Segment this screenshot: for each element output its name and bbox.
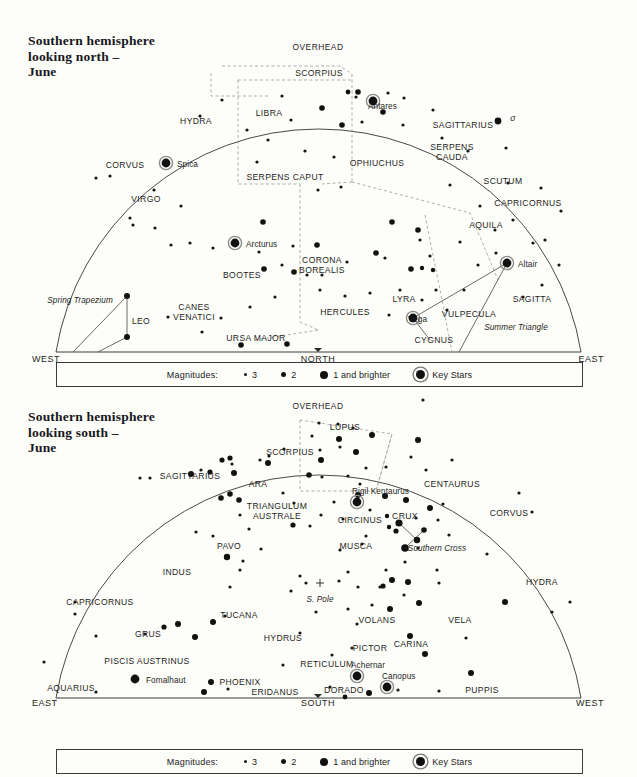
key-star-dot-icon: [416, 757, 425, 766]
stars-mag2-north: [124, 89, 435, 348]
legend-label-mag2: 2: [291, 370, 296, 380]
north-marker: [314, 348, 322, 352]
constellation-boundaries-south: [300, 420, 392, 491]
southern-cross-lines: [399, 523, 424, 548]
legend-label-mag3: 3: [252, 370, 257, 380]
south-marker: [314, 694, 322, 698]
key-star-altair: [500, 256, 513, 269]
legend-item-mag2: 2: [281, 757, 296, 767]
spring-trapezium-lines: [73, 296, 127, 352]
key-star-antares: [366, 94, 379, 107]
stars-mag3-south: [42, 398, 571, 693]
star-chart-south: Southern hemisphere looking south – June: [0, 390, 637, 777]
key-star-dot-icon: [416, 370, 425, 379]
legend-label-mag2: 2: [291, 757, 296, 767]
legend-label-mag1: 1 and brighter: [333, 757, 390, 767]
key-star-arcturus: [228, 236, 241, 249]
mag1-dot-icon: [320, 758, 328, 766]
star-chart-north: Southern hemisphere looking north – June: [0, 0, 637, 390]
mag3-dot-icon: [244, 760, 247, 763]
key-stars-south: [131, 495, 394, 693]
constellation-boundaries-north: [211, 66, 498, 352]
mag2-dot-icon: [281, 372, 286, 377]
legend-label-mag3: 3: [252, 757, 257, 767]
legend-item-mag1: 1 and brighter: [320, 370, 390, 380]
legend-title: Magnitudes:: [167, 757, 218, 767]
legend-south: Magnitudes: 3 2 1 and brighter Key Stars: [56, 749, 583, 774]
key-star-spica: [159, 156, 172, 169]
south-pole-marker: [316, 579, 324, 587]
legend-label-key-stars: Key Stars: [432, 757, 472, 767]
legend-item-mag3: 3: [244, 757, 257, 767]
chart-north-sky: [0, 0, 637, 360]
stars-mag2-south: [161, 432, 508, 699]
planet-star-sagittarius: [495, 118, 502, 125]
chart-south-sky: [0, 390, 637, 750]
key-star-achernar: [350, 669, 363, 682]
horizon-dome-south: [56, 475, 581, 698]
legend-item-key-stars: Key Stars: [414, 368, 472, 381]
legend-label-key-stars: Key Stars: [432, 370, 472, 380]
legend-item-mag3: 3: [244, 370, 257, 380]
mag3-dot-icon: [244, 373, 247, 376]
key-star-fomalhaut: [131, 675, 140, 684]
mag2-dot-icon: [281, 759, 286, 764]
key-star-canopus: [380, 680, 393, 693]
stars-mag3-north: [94, 91, 562, 333]
legend-label-mag1: 1 and brighter: [333, 370, 390, 380]
legend-item-mag1: 1 and brighter: [320, 757, 390, 767]
legend-title: Magnitudes:: [167, 370, 218, 380]
horizon-dome-north: [56, 129, 581, 352]
legend-item-key-stars: Key Stars: [414, 755, 472, 768]
summer-triangle-lines: [413, 263, 507, 352]
mag1-dot-icon: [320, 371, 328, 379]
legend-item-mag2: 2: [281, 370, 296, 380]
key-star-vega: [406, 311, 419, 324]
legend-north: Magnitudes: 3 2 1 and brighter Key Stars: [56, 362, 583, 387]
